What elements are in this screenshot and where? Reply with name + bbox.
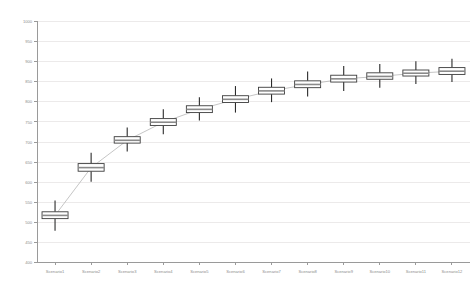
x-tick-label: Scenario5 — [190, 269, 209, 274]
box-plot-item — [222, 86, 248, 113]
x-tick-label: Scenario12 — [442, 269, 463, 274]
box-plot-chart: 4004505005506006507007508008509009501000… — [0, 0, 476, 292]
y-tick-label: 900 — [25, 59, 33, 64]
x-tick-label: Scenario7 — [262, 269, 281, 274]
y-tick-label: 1000 — [23, 19, 33, 24]
x-tick-label: Scenario8 — [298, 269, 317, 274]
box-plot-item — [295, 72, 321, 97]
y-axis — [34, 21, 38, 263]
box-plot-item — [331, 66, 357, 91]
box-plot-item — [367, 64, 393, 88]
y-tick-label: 400 — [25, 260, 33, 265]
x-axis — [37, 262, 470, 265]
chart-canvas: 4004505005506006507007508008509009501000… — [0, 0, 476, 292]
y-tick-label: 600 — [25, 180, 33, 185]
y-tick-label: 500 — [25, 220, 33, 225]
x-tick-label: Scenario11 — [406, 269, 427, 274]
y-tick-label: 550 — [25, 200, 33, 205]
box-series — [42, 59, 465, 231]
grid-lines — [37, 22, 470, 263]
x-tick-label: Scenario2 — [82, 269, 101, 274]
y-tick-labels: 4004505005506006507007508008509009501000 — [23, 19, 33, 265]
y-tick-label: 850 — [25, 79, 33, 84]
y-tick-label: 650 — [25, 160, 33, 165]
box-plot-item — [78, 153, 104, 182]
y-tick-label: 700 — [25, 140, 33, 145]
box-plot-item — [186, 97, 212, 120]
x-tick-label: Scenario9 — [334, 269, 353, 274]
x-tick-label: Scenario3 — [118, 269, 137, 274]
box-plot-item — [150, 109, 176, 134]
y-tick-label: 450 — [25, 240, 33, 245]
y-tick-label: 800 — [25, 99, 33, 104]
x-tick-label: Scenario4 — [154, 269, 173, 274]
box-plot-item — [439, 59, 465, 82]
box-plot-item — [403, 61, 429, 84]
x-tick-label: Scenario6 — [226, 269, 245, 274]
x-tick-labels: Scenario1Scenario2Scenario3Scenario4Scen… — [46, 269, 463, 274]
x-tick-label: Scenario10 — [369, 269, 390, 274]
y-tick-label: 950 — [25, 39, 33, 44]
x-tick-label: Scenario1 — [46, 269, 65, 274]
y-tick-label: 750 — [25, 120, 33, 125]
box-plot-item — [114, 127, 140, 151]
box-plot-item — [42, 201, 68, 231]
